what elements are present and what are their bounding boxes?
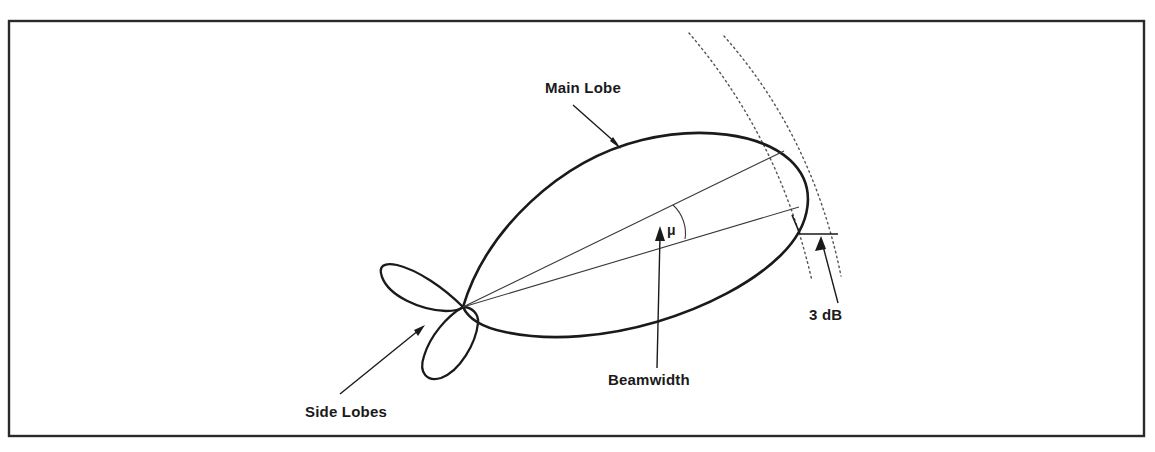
figure-background: [0, 0, 1155, 452]
figure-root: μ Main Lobe Side Lobes Beamwidth 3 dB: [0, 0, 1155, 452]
three-db-label: 3 dB: [809, 306, 842, 323]
antenna-pattern-diagram: μ Main Lobe Side Lobes Beamwidth 3 dB: [0, 0, 1155, 452]
main-lobe-label: Main Lobe: [545, 79, 621, 96]
beamwidth-label: Beamwidth: [608, 371, 690, 388]
side-lobes-label: Side Lobes: [305, 403, 387, 420]
angle-symbol-mu: μ: [667, 222, 676, 238]
